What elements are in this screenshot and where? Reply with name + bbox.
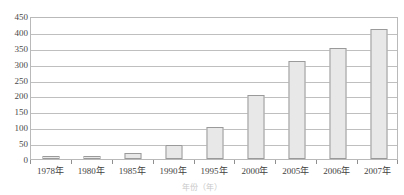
bar: [206, 127, 223, 159]
bar: [125, 153, 142, 159]
y-tick-label: 50: [0, 140, 28, 149]
x-tick: [153, 160, 154, 164]
x-tick-label: 1995年: [201, 166, 228, 177]
plot-area: [30, 17, 398, 160]
x-tick: [234, 160, 235, 164]
bar-slot: [317, 18, 358, 159]
bar-slot: [72, 18, 113, 159]
x-tick-label: 1990年: [160, 166, 187, 177]
x-tick-label: 2006年: [323, 166, 350, 177]
x-tick-label: 2000年: [241, 166, 268, 177]
y-tick-label: 150: [0, 108, 28, 117]
bar: [166, 145, 183, 159]
y-tick-label: 400: [0, 29, 28, 38]
x-tick-label: 1980年: [78, 166, 105, 177]
bar-slot: [195, 18, 236, 159]
bar-slot: [276, 18, 317, 159]
y-tick-label: 200: [0, 92, 28, 101]
bar-slot: [235, 18, 276, 159]
bar: [370, 29, 387, 159]
y-tick-label: 450: [0, 13, 28, 22]
bars-group: [31, 18, 397, 159]
y-tick-label: 300: [0, 61, 28, 70]
y-tick-label: 100: [0, 124, 28, 133]
x-tick-label: 1978年: [37, 166, 64, 177]
y-tick-label: 350: [0, 45, 28, 54]
x-axis: 1978年1980年1985年1990年1995年2000年2005年2006年…: [30, 166, 398, 180]
bar-slot: [358, 18, 399, 159]
x-tick-label: 2005年: [282, 166, 309, 177]
x-tick-label: 2007年: [364, 166, 391, 177]
x-tick: [275, 160, 276, 164]
y-tick-label: 250: [0, 77, 28, 86]
bar-slot: [31, 18, 72, 159]
y-axis: 450400350300250200150100500: [0, 10, 28, 160]
x-axis-ticks: [30, 160, 398, 164]
x-tick: [112, 160, 113, 164]
bar: [288, 61, 305, 160]
bar-chart-figure: 450400350300250200150100500 1978年1980年19…: [0, 0, 404, 195]
y-tick-label: 0: [0, 156, 28, 165]
x-tick: [397, 160, 398, 164]
bar: [247, 95, 264, 159]
x-tick: [194, 160, 195, 164]
x-tick-label: 1985年: [119, 166, 146, 177]
x-tick: [357, 160, 358, 164]
x-axis-title: 年份（年）: [0, 183, 404, 193]
x-tick: [316, 160, 317, 164]
bar-slot: [154, 18, 195, 159]
bar-slot: [113, 18, 154, 159]
x-tick: [30, 160, 31, 164]
bar: [84, 156, 101, 159]
bar: [43, 156, 60, 159]
x-tick: [71, 160, 72, 164]
bar: [329, 48, 346, 159]
